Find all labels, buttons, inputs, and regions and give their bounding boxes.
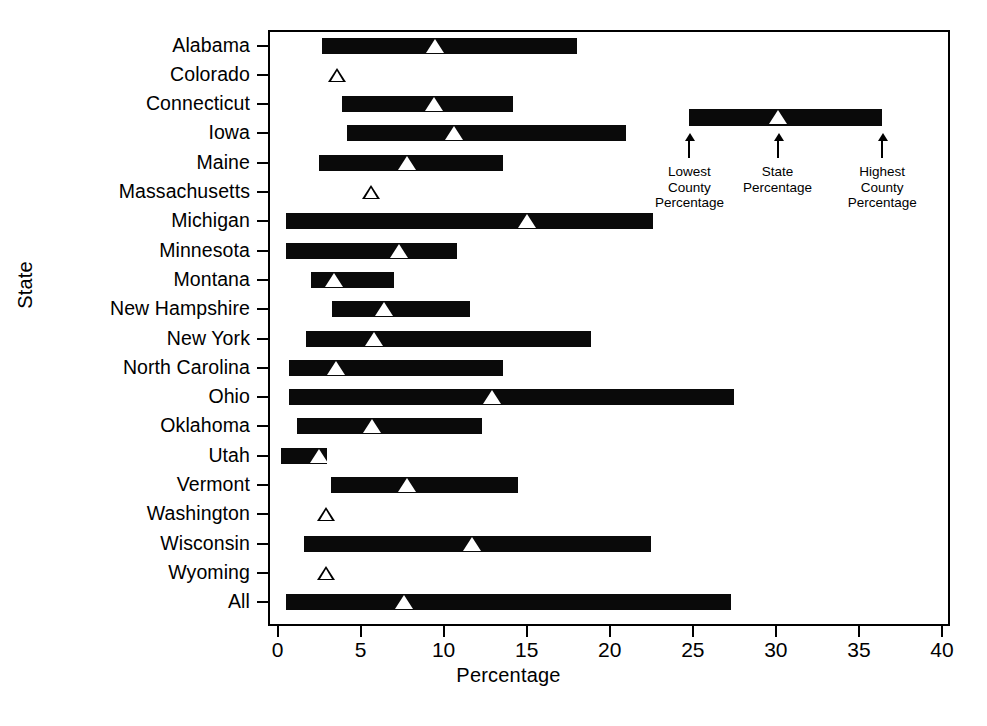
- state-percentage-marker: [445, 126, 463, 140]
- category-label: Oklahoma: [160, 416, 250, 436]
- category-label: All: [228, 592, 250, 612]
- category-tick: [257, 425, 270, 427]
- category-label: Ohio: [208, 387, 250, 407]
- x-axis-tick: [609, 626, 611, 637]
- range-bar: [286, 243, 457, 259]
- category-label: Minnesota: [159, 241, 250, 261]
- range-bar: [289, 360, 503, 376]
- x-axis-tick-label: 5: [331, 638, 391, 662]
- x-axis-tick: [775, 626, 777, 637]
- state-percentage-marker: [483, 390, 501, 404]
- category-tick: [257, 250, 270, 252]
- category-label: Connecticut: [146, 94, 250, 114]
- x-axis-tick: [692, 626, 694, 637]
- state-percentage-marker: [426, 39, 444, 53]
- range-bar: [322, 38, 576, 54]
- legend-arrow-head-icon: [774, 133, 784, 141]
- x-axis-tick: [443, 626, 445, 637]
- x-axis-tick-label: 20: [580, 638, 640, 662]
- x-axis-title: Percentage: [0, 664, 987, 687]
- category-tick: [257, 279, 270, 281]
- state-percentage-marker: [395, 595, 413, 609]
- legend-annotation-label: HighestCountyPercentage: [827, 164, 937, 211]
- x-axis-tick-label: 35: [829, 638, 889, 662]
- state-percentage-marker-open: [328, 68, 346, 82]
- state-percentage-marker-open: [317, 566, 335, 580]
- state-percentage-marker: [363, 419, 381, 433]
- category-tick: [257, 572, 270, 574]
- x-axis-tick: [526, 626, 528, 637]
- category-tick: [257, 191, 270, 193]
- legend-annotation-line: State: [723, 164, 833, 180]
- x-axis-tick-label: 0: [248, 638, 308, 662]
- category-tick: [257, 45, 270, 47]
- category-tick: [257, 338, 270, 340]
- x-axis-tick: [277, 626, 279, 637]
- legend-arrow-stem: [777, 138, 779, 158]
- category-tick: [257, 601, 270, 603]
- range-bar: [286, 594, 731, 610]
- category-tick: [257, 455, 270, 457]
- category-label: Iowa: [208, 123, 250, 143]
- state-percentage-marker: [518, 214, 536, 228]
- category-label: Wisconsin: [160, 534, 250, 554]
- legend-arrow-stem: [881, 138, 883, 158]
- category-tick: [257, 484, 270, 486]
- state-percentage-marker: [310, 449, 328, 463]
- category-label: North Carolina: [123, 358, 250, 378]
- state-percentage-marker: [398, 156, 416, 170]
- state-percentage-marker-open: [317, 507, 335, 521]
- range-bar: [286, 213, 653, 229]
- category-label: Colorado: [170, 65, 250, 85]
- legend-annotation-line: Percentage: [723, 180, 833, 196]
- state-percentage-marker: [398, 478, 416, 492]
- x-axis-tick-label: 15: [497, 638, 557, 662]
- category-tick: [257, 308, 270, 310]
- category-label: Utah: [208, 446, 250, 466]
- range-bar: [289, 389, 734, 405]
- category-label: Alabama: [172, 36, 250, 56]
- category-label: New Hampshire: [110, 299, 250, 319]
- range-chart: State AlabamaColoradoConnecticutIowaMain…: [0, 0, 987, 726]
- legend-annotation-label: StatePercentage: [723, 164, 833, 195]
- x-axis-tick: [941, 626, 943, 637]
- state-percentage-marker: [425, 97, 443, 111]
- category-tick: [257, 103, 270, 105]
- range-bar: [311, 272, 394, 288]
- category-tick: [257, 162, 270, 164]
- legend-annotation-line: Percentage: [827, 195, 937, 211]
- legend-annotation-line: Highest: [827, 164, 937, 180]
- state-percentage-marker: [375, 302, 393, 316]
- category-tick: [257, 132, 270, 134]
- category-tick: [257, 543, 270, 545]
- category-label: New York: [167, 329, 250, 349]
- category-label: Wyoming: [168, 563, 250, 583]
- state-percentage-marker: [463, 537, 481, 551]
- category-tick: [257, 513, 270, 515]
- category-label: Vermont: [177, 475, 250, 495]
- x-axis-tick: [360, 626, 362, 637]
- state-percentage-marker-open: [362, 185, 380, 199]
- state-percentage-marker: [365, 332, 383, 346]
- legend-arrow-stem: [688, 138, 690, 158]
- category-tick: [257, 396, 270, 398]
- x-axis-tick-label: 40: [912, 638, 972, 662]
- category-label: Michigan: [171, 211, 250, 231]
- x-axis-tick-label: 30: [746, 638, 806, 662]
- state-percentage-marker: [390, 244, 408, 258]
- x-axis-tick-label: 10: [414, 638, 474, 662]
- category-label: Massachusetts: [119, 182, 250, 202]
- state-percentage-marker: [327, 361, 345, 375]
- range-bar: [331, 477, 519, 493]
- range-bar: [297, 418, 481, 434]
- legend-state-percentage-marker: [769, 110, 787, 124]
- legend-annotation-line: County: [827, 180, 937, 196]
- legend-annotation-line: Percentage: [634, 195, 744, 211]
- category-label: Montana: [173, 270, 250, 290]
- range-bar: [332, 301, 470, 317]
- range-bar: [306, 331, 592, 347]
- range-bar: [347, 125, 626, 141]
- category-tick: [257, 74, 270, 76]
- category-label: Maine: [196, 153, 250, 173]
- legend-arrow-head-icon: [878, 133, 888, 141]
